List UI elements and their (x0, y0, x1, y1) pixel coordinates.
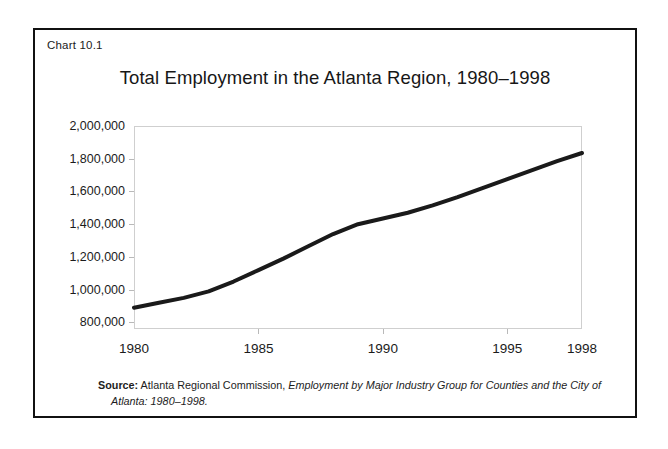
x-tick-label: 1995 (492, 341, 522, 356)
source-note: Source: Atlanta Regional Commission, Emp… (98, 378, 601, 409)
plot-area: 800,0001,000,0001,200,0001,400,0001,600,… (134, 126, 582, 329)
y-tick-mark (129, 159, 134, 160)
x-tick-mark (383, 329, 384, 334)
y-tick-label: 1,800,000 (69, 152, 125, 166)
y-tick-label: 2,000,000 (69, 119, 125, 133)
chart-number-label: Chart 10.1 (47, 39, 103, 51)
y-tick-label: 1,600,000 (69, 184, 125, 198)
x-tick-mark (507, 329, 508, 334)
source-label: Source: (98, 379, 138, 391)
source-organization: Atlanta Regional Commission, (141, 379, 286, 391)
chart-figure: Chart 10.1 Total Employment in the Atlan… (33, 28, 637, 418)
y-tick-label: 1,200,000 (69, 250, 125, 264)
y-tick-label: 1,000,000 (69, 283, 125, 297)
employment-line (134, 153, 582, 308)
chart-title: Total Employment in the Atlanta Region, … (35, 67, 635, 89)
x-tick-label: 1985 (243, 341, 273, 356)
y-tick-label: 800,000 (80, 315, 125, 329)
y-tick-mark (129, 322, 134, 323)
y-tick-mark (129, 257, 134, 258)
x-tick-label: 1990 (368, 341, 398, 356)
y-tick-mark (129, 290, 134, 291)
x-tick-label: 1998 (567, 341, 597, 356)
y-tick-mark (129, 191, 134, 192)
line-series-svg (134, 126, 582, 329)
y-tick-mark (129, 224, 134, 225)
x-tick-label: 1980 (119, 341, 149, 356)
y-tick-label: 1,400,000 (69, 217, 125, 231)
x-tick-mark (258, 329, 259, 334)
